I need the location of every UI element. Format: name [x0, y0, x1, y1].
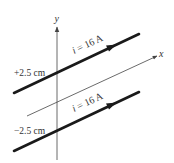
- current-arrow-icon: [106, 103, 117, 110]
- lower-wire: i = 16 A −2.5 cm: [14, 90, 139, 151]
- x-axis: x: [27, 48, 164, 116]
- y-axis: y: [54, 13, 60, 160]
- y-axis-label: y: [54, 13, 60, 24]
- x-axis-label: x: [158, 48, 164, 59]
- upper-wire: i = 16 A +2.5 cm: [14, 32, 139, 93]
- current-arrow-icon: [106, 45, 117, 52]
- parallel-wires-diagram: y x i = 16 A +2.5 cm i = 16 A −2.5 cm: [0, 0, 174, 163]
- lower-wire-position-label: −2.5 cm: [14, 126, 46, 136]
- upper-wire-position-label: +2.5 cm: [14, 68, 46, 78]
